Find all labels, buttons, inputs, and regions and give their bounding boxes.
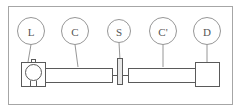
callout-slit[interactable]: S [108, 20, 131, 43]
callout-lamp[interactable]: L [18, 18, 45, 45]
callout-labels-group: L C S C' D [18, 18, 221, 45]
slit-plate [118, 59, 123, 85]
collimator-left [46, 69, 113, 83]
callout-label-slit: S [116, 26, 122, 38]
callout-collimator-right[interactable]: C' [150, 18, 177, 45]
leader-line-collimator-left [75, 45, 78, 68]
diagram-canvas: L C S C' D [0, 0, 240, 111]
callout-label-collimator-right: C' [158, 26, 167, 38]
callout-collimator-left[interactable]: C [62, 18, 89, 45]
callout-detector[interactable]: D [194, 18, 221, 45]
leader-line-slit [119, 43, 120, 61]
leader-line-lamp [28, 45, 31, 63]
slit-sample [118, 59, 123, 85]
lamp-bulb-icon [26, 65, 42, 81]
detector-housing [196, 63, 220, 87]
collimator-right-tube [129, 69, 196, 83]
optical-apparatus-figure: L C S C' D [0, 0, 240, 111]
collimator-right [129, 69, 196, 83]
callout-label-lamp: L [28, 26, 35, 38]
collimator-left-tube [46, 69, 113, 83]
callout-label-detector: D [203, 26, 211, 38]
detector [196, 63, 220, 87]
lamp-source [22, 60, 46, 87]
callout-label-collimator-left: C [71, 26, 78, 38]
